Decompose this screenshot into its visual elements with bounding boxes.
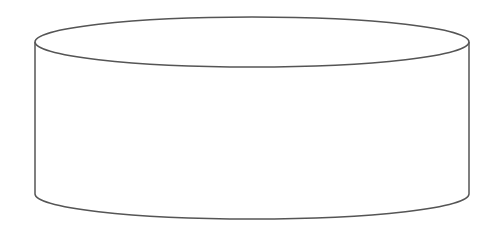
- cylinder-body: [35, 42, 469, 219]
- cylinder-top: [35, 17, 469, 67]
- cylinder-shape[interactable]: [35, 17, 469, 219]
- diagram-canvas: [0, 0, 498, 233]
